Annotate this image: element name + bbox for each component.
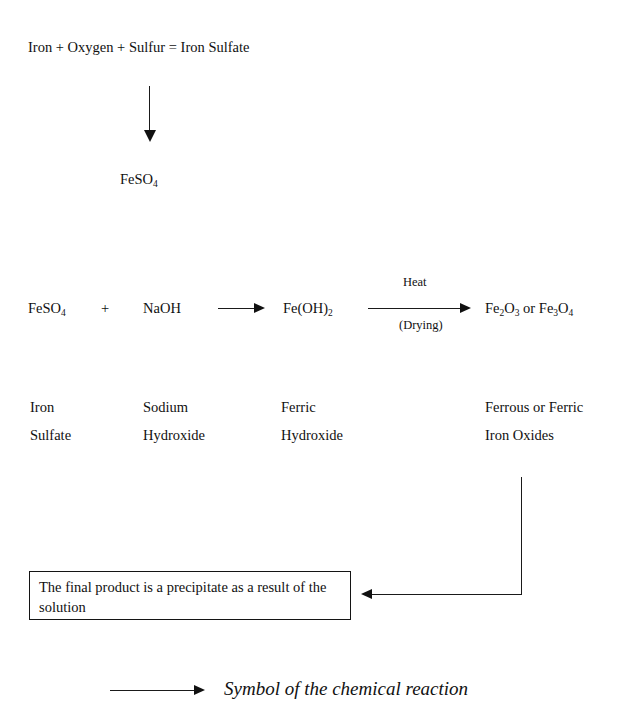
name-label-ferric-hydroxide-line1: Ferric [281, 400, 316, 416]
intermediate-compound: FeSO4 [120, 172, 158, 188]
legend-label: Symbol of the chemical reaction [224, 678, 468, 700]
product-iron-oxides: Fe2O3 or Fe3O4 [485, 301, 573, 317]
reaction-arrow-1-shaft [218, 308, 256, 309]
reactant-iron-sulfate: FeSO4 [28, 301, 66, 317]
condition-drying-label: (Drying) [399, 318, 443, 333]
product-2b-sub2: 4 [569, 308, 574, 318]
product-ferric-hydroxide: Fe(OH)2 [283, 301, 333, 317]
intermediate-formula: FeSO [120, 171, 153, 187]
word-equation: Iron + Oxygen + Sulfur = Iron Sulfate [28, 40, 249, 56]
name-label-sodium-hydroxide-line2: Hydroxide [143, 428, 205, 444]
legend-arrow-head [194, 685, 205, 695]
name-label-iron-oxides-line2: Iron Oxides [485, 428, 554, 444]
reaction-arrow-2-head [460, 303, 471, 313]
condition-heat-label: Heat [403, 275, 427, 290]
elbow-connector-vertical [521, 477, 522, 595]
reaction-arrow-2-shaft [368, 308, 462, 309]
elbow-connector-horizontal [372, 594, 522, 595]
product-2b-element: Fe [539, 300, 554, 316]
result-text-line2: solution [39, 598, 342, 618]
elbow-connector-arrowhead [361, 589, 372, 599]
product-2a-oxygen: O [504, 300, 514, 316]
result-text-line1: The final product is a precipitate as a … [39, 578, 342, 598]
result-text-box: The final product is a precipitate as a … [29, 571, 351, 620]
name-label-iron-oxides-line1: Ferrous or Ferric [485, 400, 583, 416]
product-1-subscript: 2 [328, 308, 333, 318]
product-2b-oxygen: O [558, 300, 568, 316]
legend-arrow-shaft [110, 690, 196, 691]
down-arrow-shaft [149, 86, 150, 132]
name-label-sodium-hydroxide-line1: Sodium [143, 400, 188, 416]
name-label-ferric-hydroxide-line2: Hydroxide [281, 428, 343, 444]
intermediate-subscript: 4 [153, 179, 158, 189]
product-2a-element: Fe [485, 300, 500, 316]
down-arrow-head [144, 130, 156, 142]
plus-sign: + [101, 301, 109, 317]
product-1-formula: Fe(OH) [283, 300, 328, 316]
reactant-1-formula: FeSO [28, 300, 61, 316]
name-label-iron-sulfate-line2: Sulfate [30, 428, 71, 444]
reactant-1-subscript: 4 [61, 308, 66, 318]
product-2-conjunction: or [519, 300, 538, 316]
name-label-iron-sulfate-line1: Iron [30, 400, 54, 416]
reactant-sodium-hydroxide: NaOH [143, 301, 181, 317]
reaction-arrow-1-head [254, 303, 265, 313]
